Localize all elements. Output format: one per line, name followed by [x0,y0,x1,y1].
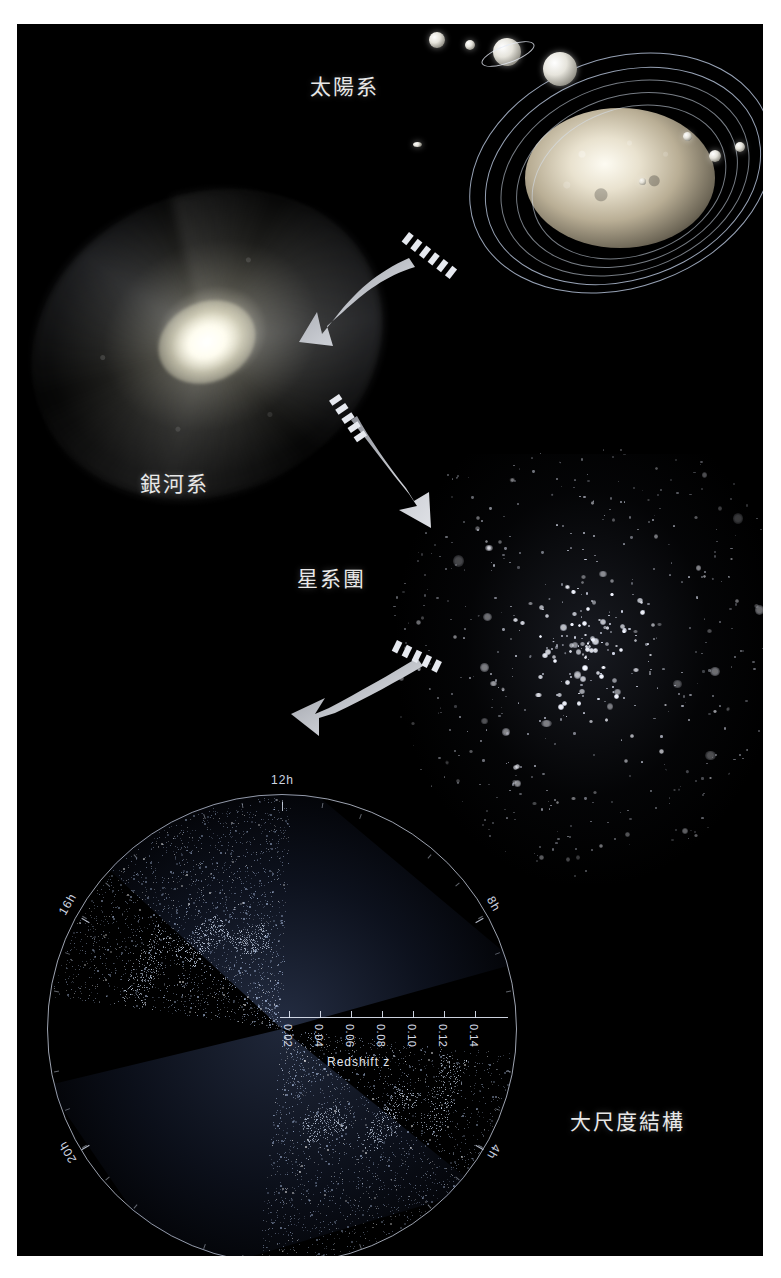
survey-galaxy-point [262,1023,263,1024]
survey-galaxy-point [380,1139,381,1140]
survey-galaxy-point [286,1048,287,1049]
cluster-galaxy [498,540,502,544]
survey-galaxy-point [239,868,240,869]
survey-galaxy-point [126,909,127,910]
survey-galaxy-point [292,1205,293,1206]
survey-galaxy-point [347,1226,349,1228]
survey-galaxy-point [447,1058,448,1059]
survey-galaxy-point [317,1244,318,1245]
survey-galaxy-point [294,1193,295,1194]
survey-galaxy-point [195,958,196,959]
survey-galaxy-point [411,1127,412,1128]
survey-galaxy-point [400,1097,401,1098]
survey-galaxy-point [153,1006,154,1007]
survey-galaxy-point [105,979,107,981]
survey-galaxy-point [401,1154,402,1155]
survey-galaxy-point [280,818,281,819]
survey-galaxy-point [320,1192,321,1193]
survey-galaxy-point [172,1013,173,1014]
survey-galaxy-point [358,1205,359,1206]
survey-galaxy-point [113,887,114,888]
survey-galaxy-point [262,1005,263,1006]
survey-galaxy-point [311,1214,313,1216]
survey-galaxy-point [165,888,166,889]
cluster-core-galaxy [605,642,609,646]
survey-galaxy-point [260,938,261,939]
survey-galaxy-point [184,978,185,979]
survey-galaxy-point [323,1093,324,1094]
survey-galaxy-point [259,918,260,919]
survey-galaxy-point [360,1040,361,1041]
planet-8 [735,142,745,152]
survey-galaxy-point [144,968,146,970]
survey-galaxy-point [158,847,159,848]
cluster-galaxy [729,608,732,610]
survey-galaxy-point [283,1074,284,1075]
survey-galaxy-point [157,975,158,976]
label-galaxy-cluster: 星系團 [297,562,366,592]
survey-galaxy-point [447,1117,448,1118]
survey-galaxy-point [237,925,238,926]
survey-galaxy-point [279,907,280,908]
survey-galaxy-point [191,958,192,959]
survey-galaxy-point [260,853,261,854]
survey-galaxy-point [433,1131,434,1132]
survey-galaxy-point [330,1191,331,1192]
survey-galaxy-point [268,849,269,850]
survey-galaxy-point [211,945,212,946]
redshift-axis-title: Redshift z [327,1055,390,1069]
survey-galaxy-point [455,1126,456,1127]
survey-galaxy-point [283,1094,284,1095]
survey-galaxy-point [170,960,171,961]
survey-galaxy-point [127,998,128,999]
survey-galaxy-point [270,921,271,922]
survey-galaxy-point [163,997,164,998]
cluster-galaxy [541,551,544,554]
survey-galaxy-point [242,902,244,904]
survey-galaxy-point [231,951,232,952]
survey-galaxy-point [295,1173,296,1174]
survey-galaxy-point [222,880,223,881]
survey-galaxy-point [315,1211,316,1212]
survey-galaxy-point [328,1124,329,1125]
survey-galaxy-point [303,1095,304,1096]
survey-galaxy-point [404,1223,406,1225]
cluster-galaxy [681,705,683,707]
survey-galaxy-point [282,1106,284,1108]
survey-galaxy-point [267,813,268,814]
cluster-core-galaxy [572,642,577,647]
survey-galaxy-point [139,882,140,883]
survey-galaxy-point [289,1149,290,1150]
survey-galaxy-point [301,1199,302,1200]
survey-galaxy-point [150,976,151,977]
planet-7 [709,150,721,162]
survey-galaxy-point [149,924,150,925]
survey-galaxy-point [308,1125,309,1126]
cluster-galaxy [411,722,415,725]
survey-galaxy-point [274,1194,275,1195]
survey-galaxy-point [316,1120,317,1121]
survey-galaxy-point [244,1014,245,1015]
survey-galaxy-point [258,984,259,985]
survey-galaxy-point [383,1182,384,1183]
survey-galaxy-point [356,1073,358,1075]
survey-galaxy-point [89,977,90,978]
survey-galaxy-point [251,955,252,956]
survey-galaxy-point [395,1093,396,1094]
survey-galaxy-point [164,906,165,907]
survey-galaxy-point [372,1173,373,1174]
survey-galaxy-point [226,869,227,870]
survey-galaxy-point [298,1219,299,1220]
survey-galaxy-point [297,1088,298,1089]
survey-galaxy-point [498,1085,499,1086]
survey-galaxy-point [468,1066,469,1067]
survey-galaxy-point [271,1205,272,1206]
survey-galaxy-point [450,1162,452,1164]
survey-galaxy-point [367,1180,368,1181]
survey-galaxy-point [113,907,114,908]
survey-galaxy-point [262,985,263,986]
survey-galaxy-point [391,1123,392,1124]
survey-galaxy-point [225,977,226,978]
survey-galaxy-point [270,843,272,845]
survey-galaxy-point [303,1125,304,1126]
